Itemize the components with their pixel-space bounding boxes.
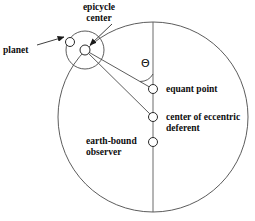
label-earth-bound-observer: earth-bound observer [86,136,150,158]
diagram-canvas [0,0,255,221]
theta-angle-arc [140,74,153,82]
planet-leader-line [37,37,64,45]
equant-point-node [149,85,158,94]
label-planet: planet [3,45,28,56]
label-theta-angle: Θ [141,58,150,69]
label-equant-point: equant point [166,84,217,95]
ptolemaic-equant-diagram: epicycle center planet Θ equant point ce… [0,0,255,221]
planet-node [66,38,75,47]
label-center-of-eccentric-deferent: center of eccentric deferent [166,112,255,134]
center-of-eccentric-deferent-node [149,113,158,122]
epicycle-center-node [80,45,90,55]
label-epicycle-center: epicycle center [68,2,130,24]
epicycle-center-leader-line [90,24,112,45]
